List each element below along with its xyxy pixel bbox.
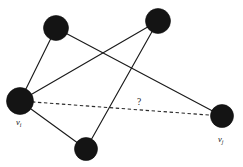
node-bottom[interactable] [75, 138, 98, 161]
link-prediction-figure: vi vj ? [0, 0, 243, 167]
node-vi[interactable] [7, 88, 34, 115]
edge-vi-topright[interactable] [20, 21, 158, 101]
graph-canvas: vi vj ? [0, 0, 243, 167]
edge-layer [20, 21, 222, 149]
node-vj[interactable] [211, 105, 234, 128]
node-layer [7, 9, 234, 161]
node-top-left[interactable] [44, 16, 69, 41]
node-top-right[interactable] [146, 9, 171, 34]
label-question-mark: ? [137, 97, 141, 107]
label-vj: vj [218, 134, 224, 145]
label-vj-subscript: j [221, 139, 224, 145]
label-vi: vi [16, 117, 22, 128]
edge-vi-vj-predicted[interactable] [20, 101, 222, 116]
label-vi-subscript: i [20, 122, 22, 128]
edge-topright-bottom[interactable] [86, 21, 158, 149]
